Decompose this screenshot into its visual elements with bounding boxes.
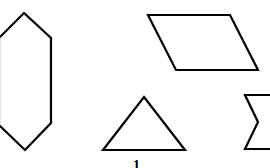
triangle-shape bbox=[103, 97, 185, 150]
sigma-shape bbox=[245, 95, 270, 149]
figure-label: 1 bbox=[133, 159, 140, 168]
hexagon-shape bbox=[0, 13, 51, 150]
figure-canvas: 1 bbox=[0, 0, 270, 168]
parallelogram-shape bbox=[148, 15, 258, 70]
shapes-figure bbox=[0, 0, 270, 168]
